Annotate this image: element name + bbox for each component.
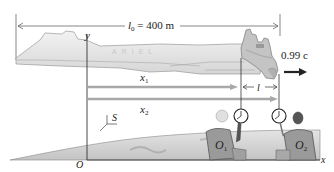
clock-icon (234, 109, 248, 123)
clock-icon (272, 109, 286, 123)
diagram-root: l0 = 400 m y x O S 0.99 c l x1 x2 O1 O2 … (0, 0, 334, 172)
x2-arrow (88, 96, 278, 102)
observer-1-subscript: 1 (224, 145, 228, 153)
origin-label: O (76, 160, 83, 170)
observer-1-symbol: O (215, 138, 224, 152)
x1-label: x1 (140, 72, 148, 85)
proper-length-label: l0 = 400 m (128, 20, 174, 33)
y-axis-label: y (85, 30, 90, 41)
observer-2-symbol: O (295, 138, 304, 152)
x-axis-label: x (321, 155, 325, 165)
contracted-length-label: l (257, 83, 260, 93)
frame-s-label: S (112, 113, 117, 123)
x2-subscript: 2 (145, 109, 149, 117)
x1-subscript: 1 (145, 77, 149, 85)
ground-terrain (10, 130, 320, 160)
proper-length-subscript: 0 (131, 25, 135, 33)
x2-label: x2 (140, 104, 148, 117)
velocity-arrow (284, 68, 307, 76)
observer-1-label: O1 (215, 139, 227, 153)
velocity-label: 0.99 c (281, 50, 308, 61)
observer-2-label: O2 (295, 139, 307, 153)
observer-2-subscript: 2 (304, 145, 308, 153)
x1-arrow (88, 84, 238, 90)
proper-length-value: = 400 m (137, 19, 174, 31)
ship-name-label: ARIEL (112, 48, 157, 55)
